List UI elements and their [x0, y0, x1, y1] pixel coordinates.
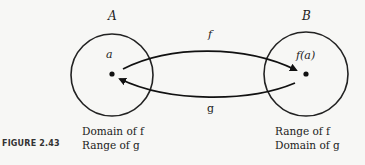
set-b-desc-line1: Range of f	[275, 124, 340, 138]
element-a-label: a	[106, 48, 113, 61]
arrow-f	[123, 51, 296, 70]
set-a-desc-line2: Range of g	[82, 138, 144, 152]
set-a-desc-line1: Domain of f	[82, 124, 144, 138]
point-fa	[303, 71, 308, 76]
set-b-desc-line2: Domain of g	[275, 138, 340, 152]
figure-caption: FIGURE 2.43	[2, 139, 60, 148]
element-fa-label: f(a)	[296, 49, 315, 62]
point-a	[109, 71, 114, 76]
set-b-description: Range of f Domain of g	[275, 124, 340, 152]
set-a-description: Domain of f Range of g	[82, 124, 144, 152]
set-b-label: B	[302, 9, 311, 23]
set-a-label: A	[108, 9, 117, 23]
function-diagram: A B a f(a) f g Domain of f Range of g Ra…	[0, 0, 365, 165]
arrow-g-label: g	[207, 102, 214, 115]
arrow-f-label: f	[208, 28, 212, 41]
